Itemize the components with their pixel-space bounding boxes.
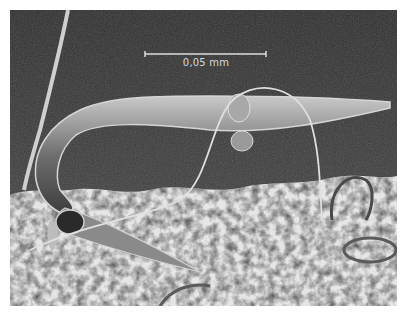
micrograph-svg — [10, 10, 397, 306]
attached-spore-lower — [231, 131, 253, 151]
micrograph — [10, 10, 397, 306]
attached-spore — [228, 94, 250, 122]
scale-bar-label: 0,05 mm — [150, 57, 262, 68]
